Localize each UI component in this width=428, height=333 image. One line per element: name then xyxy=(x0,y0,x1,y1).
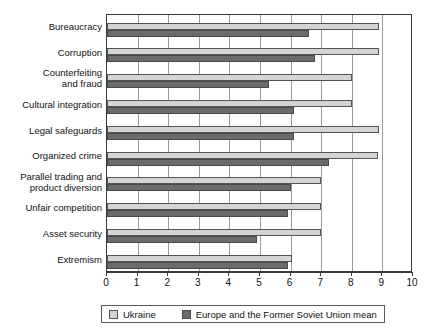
bar-efsu-mean xyxy=(107,262,288,269)
bar-group xyxy=(107,247,411,273)
category-label: Bureaucracy xyxy=(0,14,102,40)
x-tick xyxy=(381,272,382,276)
category-label: Cultural integration xyxy=(0,91,102,117)
x-tick xyxy=(228,272,229,276)
category-label: Unfair competition xyxy=(0,195,102,221)
x-tick xyxy=(351,272,352,276)
bar-group xyxy=(107,221,411,247)
bar-efsu-mean xyxy=(107,55,315,62)
bar-efsu-mean xyxy=(107,107,294,114)
bar-ukraine xyxy=(107,100,352,107)
x-tick xyxy=(167,272,168,276)
bar-group xyxy=(107,15,411,41)
legend-item-efsu-mean: Europe and the Former Soviet Union mean xyxy=(182,309,377,320)
bar-ukraine xyxy=(107,229,321,236)
category-label: Parallel trading andproduct diversion xyxy=(0,169,102,195)
legend-label-efsu-mean: Europe and the Former Soviet Union mean xyxy=(196,309,377,320)
bar-group xyxy=(107,41,411,67)
bar-efsu-mean xyxy=(107,133,294,140)
bar-ukraine xyxy=(107,74,352,81)
category-label: Extremism xyxy=(0,246,102,272)
category-label: Legal safeguards xyxy=(0,117,102,143)
bar-efsu-mean xyxy=(107,159,329,166)
legend-item-ukraine: Ukraine xyxy=(109,309,156,320)
x-tick xyxy=(412,272,413,276)
bar-efsu-mean xyxy=(107,210,288,217)
bar-rows xyxy=(107,15,411,271)
bar-group xyxy=(107,170,411,196)
bar-group xyxy=(107,67,411,93)
x-tick-label: 0 xyxy=(94,277,118,289)
x-tick-label: 7 xyxy=(308,277,332,289)
category-label: Counterfeitingand fraud xyxy=(0,66,102,92)
category-label: Organized crime xyxy=(0,143,102,169)
legend-swatch-icon-ukraine xyxy=(109,310,118,319)
category-label: Corruption xyxy=(0,40,102,66)
bar-group xyxy=(107,144,411,170)
category-label: Asset security xyxy=(0,220,102,246)
x-tick-label: 2 xyxy=(155,277,179,289)
bar-ukraine xyxy=(107,23,379,30)
x-tick-label: 1 xyxy=(125,277,149,289)
x-tick xyxy=(320,272,321,276)
plot-area xyxy=(106,14,412,272)
legend-swatch-icon-efsu-mean xyxy=(182,310,191,319)
x-tick-label: 5 xyxy=(247,277,271,289)
x-tick xyxy=(137,272,138,276)
x-tick xyxy=(106,272,107,276)
bar-group xyxy=(107,92,411,118)
x-tick-label: 4 xyxy=(216,277,240,289)
bar-ukraine xyxy=(107,48,379,55)
x-tick-label: 8 xyxy=(339,277,363,289)
bar-ukraine xyxy=(107,203,321,210)
x-tick-label: 3 xyxy=(186,277,210,289)
bar-efsu-mean xyxy=(107,30,309,37)
bar-ukraine xyxy=(107,152,378,159)
legend-label-ukraine: Ukraine xyxy=(123,309,156,320)
x-tick-label: 10 xyxy=(400,277,424,289)
chart-legend: Ukraine Europe and the Former Soviet Uni… xyxy=(101,305,385,323)
x-tick xyxy=(259,272,260,276)
bar-efsu-mean xyxy=(107,81,269,88)
bar-chart: BureaucracyCorruptionCounterfeitingand f… xyxy=(0,0,428,333)
bar-group xyxy=(107,196,411,222)
category-axis-labels: BureaucracyCorruptionCounterfeitingand f… xyxy=(0,14,102,272)
bar-ukraine xyxy=(107,126,379,133)
x-tick xyxy=(198,272,199,276)
bar-ukraine xyxy=(107,255,292,262)
bar-ukraine xyxy=(107,177,321,184)
bar-efsu-mean xyxy=(107,236,257,243)
x-tick-label: 9 xyxy=(369,277,393,289)
bar-efsu-mean xyxy=(107,184,291,191)
x-tick-label: 6 xyxy=(278,277,302,289)
bar-group xyxy=(107,118,411,144)
x-tick xyxy=(290,272,291,276)
